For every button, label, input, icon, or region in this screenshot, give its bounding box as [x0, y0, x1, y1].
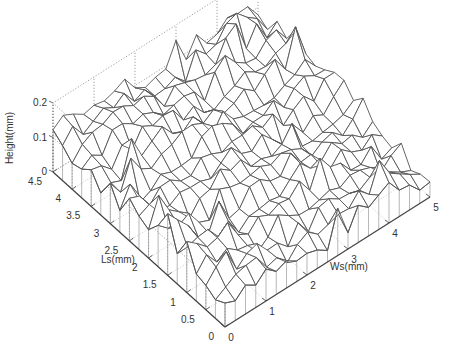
- y-tick-label: 0.5: [181, 314, 195, 325]
- y-tick-label: 4.5: [28, 176, 42, 187]
- x-tick-label: 1: [269, 306, 275, 317]
- x-tick-label: 2: [310, 280, 316, 291]
- y-tick-label: 0: [208, 331, 214, 342]
- y-tick-label: 3.5: [66, 210, 80, 221]
- surface-chart: 01234500.511.522.533.544.500.10.2 Height…: [0, 0, 468, 346]
- x-tick-label: 4: [392, 228, 398, 239]
- y-tick-label: 3: [94, 228, 100, 239]
- z-tick-label: 0.1: [33, 132, 47, 143]
- z-tick-label: 0: [41, 166, 47, 177]
- x-tick-label: 5: [433, 202, 439, 213]
- z-axis-label: Height(mm): [4, 112, 15, 164]
- y-tick-label: 1.5: [143, 279, 157, 290]
- y-axis-label: Ls(mm): [101, 254, 135, 265]
- z-tick-label: 0.2: [33, 97, 47, 108]
- x-axis-label: Ws(mm): [330, 261, 368, 272]
- y-tick-label: 4: [56, 193, 62, 204]
- surface-mesh: [53, 7, 430, 327]
- x-tick-label: 0: [228, 332, 234, 343]
- y-tick-label: 1: [170, 297, 176, 308]
